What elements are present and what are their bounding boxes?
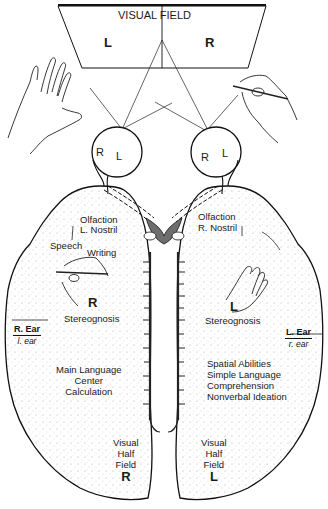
half-word: Half	[201, 448, 227, 459]
right-stereognosis-label: Stereognosis	[205, 315, 260, 326]
left-ear-label: R. Ear l. ear	[13, 324, 41, 347]
left-hand-drawing	[8, 58, 82, 154]
right-eye-l-label: L	[222, 148, 228, 159]
right-olfaction-label: Olfaction	[198, 211, 236, 222]
function-nonverbal-ideation: Nonverbal Ideation	[207, 391, 287, 402]
left-eye-r-label: R	[96, 147, 104, 158]
optic-chiasm	[144, 218, 184, 244]
left-ear-major: L. Ear	[285, 327, 312, 339]
visual-field-right-label: R	[205, 36, 214, 50]
function-center: Center	[56, 375, 122, 386]
right-ear-label: L. Ear r. ear	[285, 327, 312, 350]
left-stereognosis-label: Stereognosis	[64, 313, 119, 324]
left-functions: Main Language Center Calculation	[56, 364, 122, 397]
right-hand-letter: L	[230, 300, 238, 314]
visual-word: Visual	[113, 437, 139, 448]
right-functions: Spatial Abilities Simple Language Compre…	[207, 358, 287, 402]
function-spatial-abilities: Spatial Abilities	[207, 358, 287, 369]
visual-word: Visual	[201, 437, 227, 448]
function-simple-language: Simple Language	[207, 369, 287, 380]
left-eye-l-label: L	[116, 151, 122, 162]
split-brain-diagram	[0, 0, 328, 509]
writing-label: Writing	[87, 247, 116, 258]
right-hand-writing-drawing	[233, 75, 297, 143]
right-eye-r-label: R	[201, 152, 209, 163]
right-visual-half-field: Visual Half Field L	[201, 437, 227, 484]
right-eyeball	[191, 127, 241, 194]
half-word: Half	[113, 448, 139, 459]
right-ear-major: R. Ear	[13, 324, 41, 336]
left-ear-minor: l. ear	[13, 336, 41, 347]
left-nostril-label: L. Nostril	[80, 224, 117, 235]
corpus-callosum-cut	[143, 252, 185, 432]
function-comprehension: Comprehension	[207, 380, 287, 391]
visual-field-letter-l: L	[201, 470, 227, 484]
speech-label: Speech	[50, 240, 82, 251]
left-hand-letter: R	[88, 296, 97, 310]
right-ear-minor: r. ear	[285, 339, 312, 350]
visual-field-letter-r: R	[113, 470, 139, 484]
function-calculation: Calculation	[56, 386, 122, 397]
left-visual-half-field: Visual Half Field R	[113, 437, 139, 484]
visual-field-title: VISUAL FIELD	[118, 10, 191, 21]
function-main-language: Main Language	[56, 364, 122, 375]
visual-field-left-label: L	[104, 36, 112, 50]
right-nostril-label: R. Nostril	[198, 222, 237, 233]
